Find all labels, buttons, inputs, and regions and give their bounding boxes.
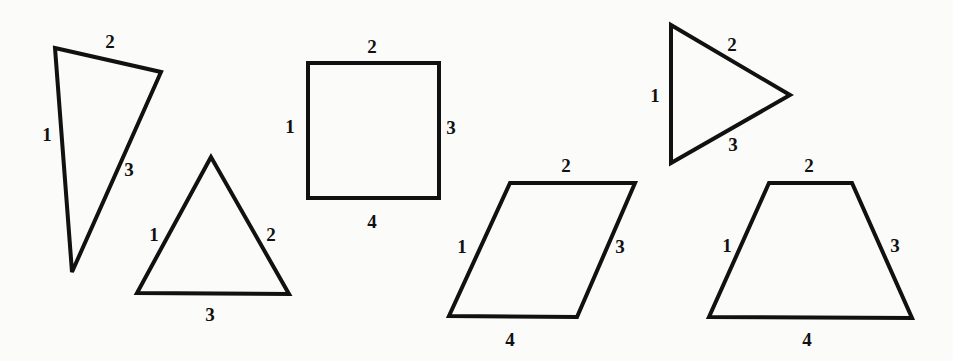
square: 1234	[285, 36, 456, 232]
edge-label: 2	[367, 36, 377, 57]
edge-label: 2	[804, 155, 814, 176]
edge-label: 3	[446, 117, 456, 138]
obtuse-triangle-outline	[55, 48, 161, 272]
equilateral-triangle: 123	[137, 157, 289, 325]
right-pointing-triangle: 123	[650, 25, 790, 163]
edge-label: 2	[105, 31, 115, 52]
edge-label: 1	[149, 224, 159, 245]
edge-label: 4	[367, 211, 377, 232]
edge-label: 1	[722, 235, 732, 256]
edge-label: 2	[561, 155, 571, 176]
edge-label: 3	[615, 236, 625, 257]
edge-label: 4	[505, 329, 515, 350]
edge-label: 1	[42, 124, 52, 145]
parallelogram: 1234	[449, 155, 635, 350]
shapes-diagram: 123123123412312341234	[0, 0, 953, 361]
obtuse-triangle: 123	[42, 31, 161, 272]
edge-label: 3	[728, 134, 738, 155]
shapes-layer: 123123123412312341234	[42, 25, 912, 350]
edge-label: 4	[802, 329, 812, 350]
trapezoid-outline	[709, 183, 912, 318]
edge-label: 1	[285, 116, 295, 137]
edge-label: 1	[650, 85, 660, 106]
edge-label: 3	[890, 235, 900, 256]
edge-label: 3	[205, 304, 215, 325]
edge-label: 3	[124, 159, 134, 180]
parallelogram-outline	[449, 183, 635, 317]
edge-label: 1	[457, 236, 467, 257]
edge-label: 2	[727, 34, 737, 55]
edge-label: 2	[266, 224, 276, 245]
square-outline	[308, 63, 439, 198]
trapezoid: 1234	[709, 155, 912, 350]
